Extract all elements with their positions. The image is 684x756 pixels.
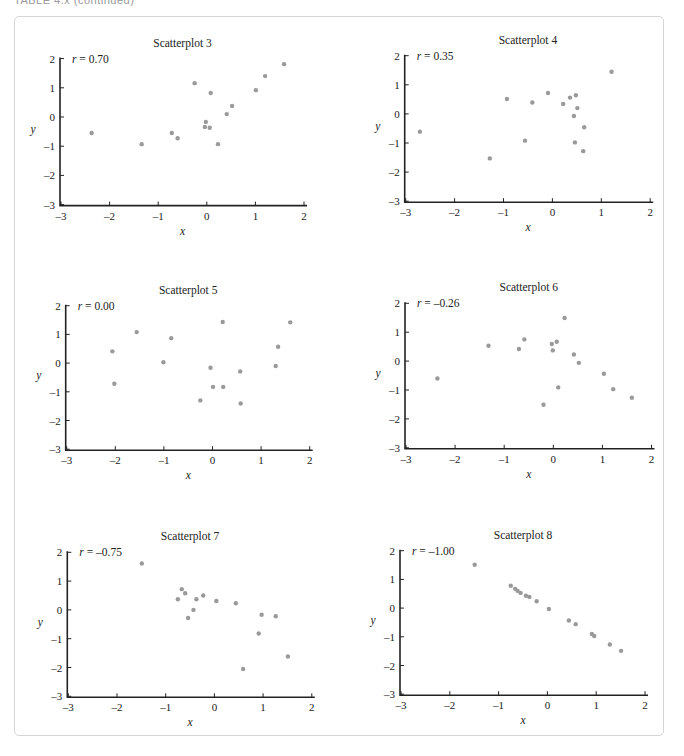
x-tick-label: 1 xyxy=(593,699,599,711)
data-point xyxy=(505,97,509,101)
data-point xyxy=(225,112,229,116)
data-point xyxy=(534,599,538,603)
axes xyxy=(405,302,655,449)
data-point xyxy=(509,584,513,588)
scatterplot-7: Scatterplot 7–3–2–1012–3–2–1012xyr = –0.… xyxy=(37,530,315,728)
x-tick-label: –3 xyxy=(400,453,413,465)
y-axis-label: y xyxy=(35,369,42,382)
y-axis-label: y xyxy=(369,614,376,627)
data-point xyxy=(221,320,225,324)
data-point xyxy=(176,597,180,601)
plot-title: Scatterplot 3 xyxy=(153,37,212,50)
correlation-annotation: r = 0.70 xyxy=(72,53,109,65)
x-tick-label: –3 xyxy=(60,454,73,466)
x-tick-label: 2 xyxy=(642,699,648,711)
data-point xyxy=(161,360,165,364)
data-point xyxy=(574,93,578,97)
data-point xyxy=(194,597,198,601)
axes xyxy=(66,305,313,451)
data-point xyxy=(619,649,623,653)
correlation-annotation: r = –0.26 xyxy=(417,297,460,309)
x-tick-label: –2 xyxy=(449,453,461,465)
y-tick-label: –1 xyxy=(43,140,55,152)
correlation-annotation: r = –0.75 xyxy=(79,546,122,558)
y-tick-label: 2 xyxy=(57,546,63,558)
correlation-annotation: r = 0.00 xyxy=(78,300,115,312)
data-point xyxy=(530,100,534,104)
x-axis-label: x xyxy=(179,225,186,237)
data-point xyxy=(186,616,190,620)
x-tick-label: –1 xyxy=(492,699,504,711)
y-axis-label: y xyxy=(374,120,381,133)
data-point xyxy=(198,398,202,402)
x-tick-label: –1 xyxy=(152,210,164,222)
x-tick-label: –2 xyxy=(443,699,455,711)
y-tick-label: –3 xyxy=(49,443,62,455)
plot-title: Scatterplot 6 xyxy=(500,281,559,294)
data-point xyxy=(608,642,612,646)
data-point xyxy=(169,336,173,340)
data-point xyxy=(211,385,215,389)
y-tick-label: 2 xyxy=(395,297,401,309)
data-point xyxy=(568,95,572,99)
y-tick-label: 1 xyxy=(390,573,396,585)
data-point xyxy=(238,369,242,373)
data-point xyxy=(486,344,490,348)
data-point xyxy=(488,156,492,160)
x-tick-label: 1 xyxy=(599,206,605,218)
data-point xyxy=(567,618,571,622)
y-tick-label: 0 xyxy=(394,108,400,120)
y-tick-label: –3 xyxy=(388,442,401,454)
data-point xyxy=(609,70,613,74)
x-tick-label: 0 xyxy=(551,453,557,465)
data-point xyxy=(263,74,267,78)
data-point xyxy=(527,595,531,599)
data-point xyxy=(191,608,195,612)
y-tick-label: 0 xyxy=(55,357,61,369)
x-tick-label: –2 xyxy=(448,206,460,218)
y-tick-label: 0 xyxy=(390,602,396,614)
y-tick-label: 2 xyxy=(394,50,400,62)
data-point xyxy=(254,88,258,92)
data-point xyxy=(418,129,422,133)
correlation-annotation: r = 0.35 xyxy=(417,50,454,62)
x-tick-label: –3 xyxy=(399,206,412,218)
y-tick-label: 2 xyxy=(55,300,61,312)
data-point xyxy=(257,631,261,635)
x-tick-label: –3 xyxy=(62,701,75,713)
data-point xyxy=(630,396,634,400)
data-point xyxy=(208,91,212,95)
correlation-annotation: r = –1.00 xyxy=(412,545,455,557)
y-tick-label: –1 xyxy=(388,384,400,396)
data-point xyxy=(214,599,218,603)
y-axis-label: y xyxy=(37,616,44,629)
y-tick-label: –2 xyxy=(388,413,400,425)
data-point xyxy=(208,126,212,130)
data-point xyxy=(180,587,184,591)
data-point xyxy=(110,349,114,353)
x-tick-label: –1 xyxy=(157,454,169,466)
y-tick-label: 2 xyxy=(390,545,396,557)
scatterplot-8: Scatterplot 8–3–2–1012–3–2–1012xyr = –1.… xyxy=(369,529,648,727)
y-tick-label: –1 xyxy=(49,386,61,398)
data-point xyxy=(238,401,242,405)
y-tick-label: –1 xyxy=(388,137,400,149)
scatterplot-grid: Scatterplot 3–3–2–1012–3–2–1012xyr = 0.7… xyxy=(0,0,684,756)
x-axis-label: x xyxy=(524,221,531,233)
x-tick-label: 2 xyxy=(647,206,653,218)
data-point xyxy=(134,330,138,334)
y-tick-label: –2 xyxy=(43,169,55,181)
data-point xyxy=(550,342,554,346)
x-tick-label: 0 xyxy=(545,699,551,711)
y-tick-label: 2 xyxy=(50,53,56,65)
data-point xyxy=(602,372,606,376)
x-tick-label: –2 xyxy=(111,701,123,713)
y-tick-label: 1 xyxy=(394,79,400,91)
data-point xyxy=(572,352,576,356)
data-point xyxy=(282,62,286,66)
data-point xyxy=(234,601,238,605)
y-tick-label: 1 xyxy=(57,575,63,587)
axes xyxy=(405,55,654,203)
y-tick-label: 0 xyxy=(50,111,56,123)
x-tick-label: 0 xyxy=(210,454,216,466)
